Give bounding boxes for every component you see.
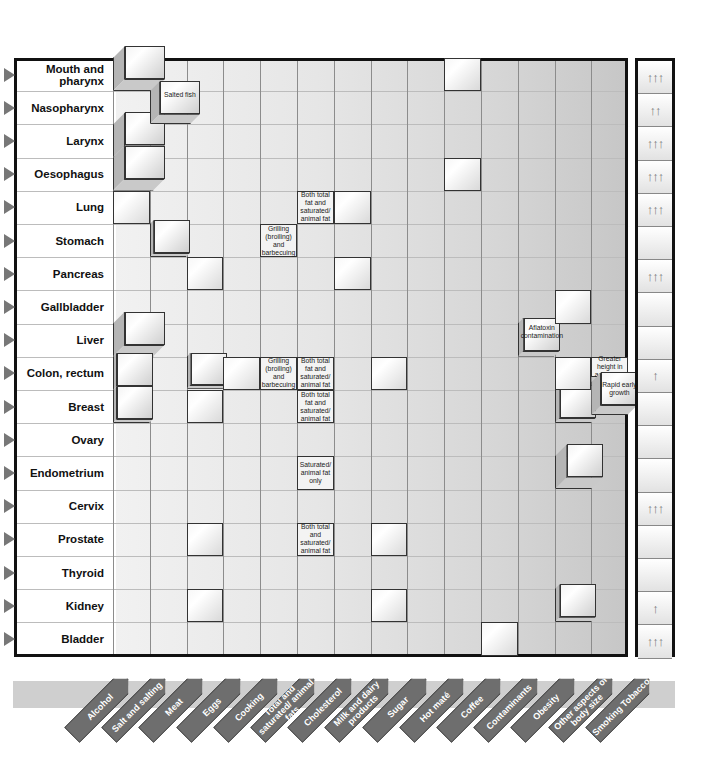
row-divider [17, 556, 625, 557]
marker-meat-prostate [187, 523, 224, 556]
column-divider [481, 61, 482, 654]
row-divider [17, 423, 625, 424]
row-label: Larynx [14, 124, 104, 157]
row-label: Thyroid [14, 556, 104, 589]
cube-front [117, 386, 153, 419]
arrow-up-icon: ↑ [652, 601, 658, 616]
column-divider [444, 61, 445, 654]
arrow-up-icon: ↑↑↑ [647, 634, 664, 649]
row-divider [17, 290, 625, 291]
column-divider [518, 61, 519, 654]
marker-meat-pancreas [187, 257, 224, 290]
tobacco-cell: ↑↑ [638, 94, 672, 127]
cube-bottom [518, 351, 560, 357]
marker-milk-dairy-kidney [371, 589, 408, 622]
tobacco-column: ↑↑↑↑↑↑↑↑↑↑↑↑↑↑↑↑↑↑↑↑↑↑↑↑↑ [635, 58, 675, 657]
marker-hot-mate-mouth-pharynx [444, 58, 481, 91]
annotation-prostate-fat: Both total and saturated/ animal fat [297, 523, 334, 556]
cube-front [560, 584, 596, 617]
tobacco-cell: ↑ [638, 592, 672, 625]
arrow-up-icon: ↑↑↑ [647, 169, 664, 184]
marker-cholesterol-lung [334, 191, 371, 224]
row-divider [17, 224, 625, 225]
arrow-up-icon: ↑↑↑ [647, 202, 664, 217]
row-label: Pancreas [14, 257, 104, 290]
tobacco-cell: ↑↑↑ [638, 61, 672, 94]
row-label: Stomach [14, 224, 104, 257]
tobacco-cell: ↑↑↑ [638, 625, 672, 658]
arrow-up-icon: ↑ [652, 368, 658, 383]
annotation-salted-fish: Salted fish [160, 85, 200, 105]
tobacco-cell: ↑↑↑ [638, 260, 672, 293]
marker-obesity-colon-rectum [555, 357, 592, 390]
annotation-stomach-cooking: Grilling (broiling) and barbecuing [260, 224, 297, 257]
marker-sugar-colon-rectum [371, 357, 408, 390]
tobacco-cell [638, 293, 672, 326]
cube-bottom [150, 253, 190, 257]
tobacco-cell: ↑↑↑ [638, 194, 672, 227]
row-label: Lung [14, 191, 104, 224]
arrow-up-icon: ↑↑↑ [647, 269, 664, 284]
marker-eggs-colon-rectum [223, 357, 260, 390]
marker-meat-kidney [187, 589, 224, 622]
marker-hot-mate-oesophagus [444, 158, 481, 191]
cube-bottom [113, 419, 153, 423]
cube-front [191, 353, 227, 385]
cube-front [117, 353, 153, 386]
row-label: Cervix [14, 490, 104, 523]
arrow-up-icon: ↑↑ [650, 103, 661, 118]
cube-front [567, 444, 603, 477]
arrow-up-icon: ↑↑↑ [647, 136, 664, 151]
cube-front [125, 46, 165, 79]
row-divider [17, 622, 625, 623]
annotation-colon-cooking: Grilling (broiling) and barbecuing [260, 357, 297, 390]
row-divider [17, 124, 625, 125]
cube-front [125, 146, 165, 179]
cube-front [154, 220, 190, 253]
tobacco-cell [638, 327, 672, 360]
arrow-up-icon: ↑↑↑ [647, 501, 664, 516]
cancer-risk-diagram: Mouth and pharynxNasopharynxLarynxOesoph… [0, 0, 716, 773]
annotation-colon-fat: Both total fat and saturated/ animal fat [297, 357, 334, 390]
row-label: Colon, rectum [14, 357, 104, 390]
marker-lung-alcohol-col [113, 191, 150, 224]
cube-bottom [555, 617, 596, 622]
row-divider [17, 589, 625, 590]
row-divider [17, 158, 625, 159]
tobacco-cell: ↑ [638, 360, 672, 393]
annotation-endometrium-fat: Saturated/ animal fat only [297, 456, 334, 489]
marker-coffee-bladder [481, 622, 518, 655]
column-divider [407, 61, 408, 654]
column-divider [334, 61, 335, 654]
row-label: Kidney [14, 589, 104, 622]
row-label: Mouth and pharynx [14, 58, 104, 91]
cube-bottom [187, 385, 227, 389]
tobacco-cell [638, 227, 672, 260]
row-label: Ovary [14, 423, 104, 456]
tobacco-cell [638, 526, 672, 559]
cube-front [125, 312, 165, 345]
annotation-breast-growth: Rapid early growth [601, 372, 637, 405]
row-label: Prostate [14, 523, 104, 556]
row-label: Liver [14, 324, 104, 357]
marker-cholesterol-pancreas [334, 257, 371, 290]
row-divider [17, 490, 625, 491]
row-label: Oesophagus [14, 158, 104, 191]
marker-milk-dairy-prostate [371, 523, 408, 556]
cube-bottom [555, 418, 596, 423]
tobacco-cell [638, 559, 672, 592]
tobacco-cell: ↑↑↑ [638, 127, 672, 160]
marker-obesity-gallbladder [555, 290, 592, 323]
row-label: Nasopharynx [14, 91, 104, 124]
tobacco-cell: ↑↑↑ [638, 161, 672, 194]
marker-meat-breast [187, 390, 224, 423]
row-divider [17, 257, 625, 258]
tobacco-cell: ↑↑↑ [638, 493, 672, 526]
annotation-lung-fat: Both total fat and saturated/ animal fat [297, 191, 334, 224]
arrow-up-icon: ↑↑↑ [647, 70, 664, 85]
row-label: Endometrium [14, 456, 104, 489]
annotation-breast-fat: Both total fat and saturated/ animal fat [297, 390, 334, 423]
row-label: Breast [14, 390, 104, 423]
row-divider [17, 91, 625, 92]
tobacco-cell [638, 426, 672, 459]
